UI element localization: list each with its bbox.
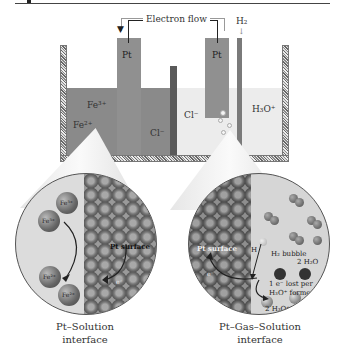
pt-surface-label: Pt surface bbox=[110, 242, 150, 251]
caption-line: interface bbox=[200, 333, 320, 346]
caption-pt-solution: Pt–Solution interface bbox=[30, 320, 140, 346]
electron-flow-label: Electron flow bbox=[143, 14, 210, 24]
electrochemical-cell: Pt Pt H₂ ↓ ▼ Electron flow Fe³⁺ Fe²⁺ Cl⁻… bbox=[0, 0, 341, 160]
electron-flow-arrow-icon: ▼ bbox=[117, 25, 124, 34]
cl-right-label: Cl⁻ bbox=[184, 110, 199, 120]
bubble bbox=[220, 110, 226, 116]
caption-line: Pt–Gas–Solution bbox=[200, 320, 320, 333]
cl-left-label: Cl⁻ bbox=[150, 128, 165, 138]
electron-lost-line2: H₃O⁺ formed bbox=[269, 289, 315, 297]
electron-lost-line1: 1 e⁻ lost per bbox=[269, 280, 313, 288]
h2-bubble-label: H₂ bubble bbox=[271, 250, 306, 258]
h3o-label: H₃O⁺ bbox=[252, 104, 276, 114]
pt-gas-solution-zoom: Pt surface H H₂ bubble 2 H₂O 1 e⁻ lost p… bbox=[188, 173, 330, 315]
pt-surface-label: Pt surface bbox=[197, 244, 237, 253]
h2-label: H₂ bbox=[236, 16, 247, 26]
caption-pt-gas-solution: Pt–Gas–Solution interface bbox=[200, 320, 320, 346]
bubble bbox=[221, 130, 226, 135]
water-label: 2 H₂O bbox=[297, 258, 318, 266]
caption-line: Pt–Solution bbox=[30, 320, 140, 333]
right-pt-label: Pt bbox=[212, 50, 222, 60]
hydronium-label: 2 H₃O⁺ bbox=[265, 305, 290, 313]
bubble bbox=[218, 118, 223, 123]
h2-arrow-icon: ↓ bbox=[238, 28, 245, 36]
caption-line: interface bbox=[30, 333, 140, 346]
fe3-label: Fe³⁺ bbox=[87, 100, 106, 110]
fe2-label: Fe²⁺ bbox=[73, 120, 92, 130]
h2-inlet-tube bbox=[237, 38, 242, 155]
left-pt-label: Pt bbox=[122, 50, 132, 60]
separator-membrane bbox=[170, 66, 177, 155]
pt-solution-zoom: Fe³⁺ Fe³⁺ Fe²⁺ Fe²⁺ Pt surface e⁻ bbox=[15, 173, 157, 315]
cell-wall-left bbox=[60, 45, 67, 162]
h-label: H bbox=[251, 246, 257, 254]
cell-wall-right bbox=[282, 45, 289, 162]
electron-label: e⁻ bbox=[116, 278, 123, 285]
bubble bbox=[227, 123, 232, 128]
electron-label: e⁻ bbox=[207, 270, 214, 277]
